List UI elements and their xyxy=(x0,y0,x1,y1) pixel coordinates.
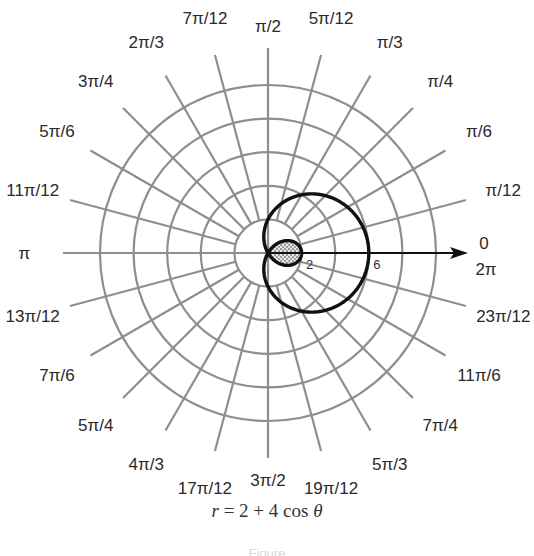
angle-label: π/4 xyxy=(427,72,453,91)
grid-spoke xyxy=(70,262,236,306)
angle-label: 11π/12 xyxy=(6,181,59,200)
angle-label: 5π/12 xyxy=(309,9,354,28)
figure-note: Figure xyxy=(0,546,534,556)
angle-label: 7π/12 xyxy=(183,9,228,28)
polar-axis-label-2pi: 2π xyxy=(475,260,496,279)
angle-label: 23π/12 xyxy=(476,307,530,326)
grid-spoke xyxy=(215,55,259,221)
angle-label: π/3 xyxy=(377,33,403,52)
angle-label: π xyxy=(19,244,31,263)
angle-label: 3π/2 xyxy=(250,471,285,490)
caption-variable: r xyxy=(211,500,218,521)
angle-label: 7π/4 xyxy=(423,416,458,435)
equation-caption: r = 2 + 4 cos θ xyxy=(0,500,534,522)
angle-label: 4π/3 xyxy=(129,455,164,474)
grid-spoke xyxy=(70,200,236,244)
angle-label: 7π/6 xyxy=(39,366,74,385)
angle-label: 17π/12 xyxy=(178,479,232,498)
angle-label: 19π/12 xyxy=(304,479,358,498)
grid-spoke xyxy=(300,262,466,306)
angle-label: 5π/6 xyxy=(39,122,74,141)
polar-axis-label-0: 0 xyxy=(479,234,488,253)
grid-spoke xyxy=(215,285,259,451)
caption-rhs: = 2 + 4 cos xyxy=(219,500,313,521)
caption-theta: θ xyxy=(313,500,322,521)
polar-plot: 02π π/12π/6π/4π/35π/12π/27π/122π/33π/45π… xyxy=(0,0,534,556)
angle-label: π/2 xyxy=(255,17,281,36)
angle-label: 5π/4 xyxy=(78,416,113,435)
radial-tick-label: 6 xyxy=(373,257,380,272)
angle-label: 3π/4 xyxy=(78,72,113,91)
grid-spoke xyxy=(300,200,466,244)
angle-label: 2π/3 xyxy=(129,33,164,52)
radial-tick-label: 2 xyxy=(306,257,313,272)
angle-label: 5π/3 xyxy=(372,455,407,474)
angle-label: 11π/6 xyxy=(457,366,501,385)
angle-label: π/12 xyxy=(486,181,521,200)
angle-label: π/6 xyxy=(466,122,492,141)
angle-label: 13π/12 xyxy=(6,307,60,326)
